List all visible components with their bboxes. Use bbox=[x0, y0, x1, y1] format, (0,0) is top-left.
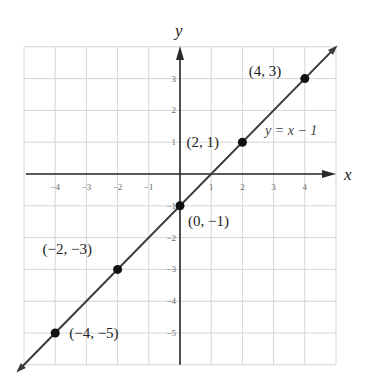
point-label: (−2, −3) bbox=[43, 241, 92, 258]
x-tick-label: −1 bbox=[144, 182, 154, 192]
y-axis-label: y bbox=[173, 21, 183, 40]
y-tick-label: −3 bbox=[166, 264, 176, 274]
point-label: (−4, −5) bbox=[69, 325, 118, 342]
y-tick-label: 1 bbox=[172, 137, 177, 147]
x-axis-arrowhead-icon bbox=[322, 170, 336, 178]
data-point-marker bbox=[51, 329, 60, 338]
x-tick-label: −4 bbox=[50, 182, 60, 192]
y-axis-arrowhead-icon bbox=[176, 46, 184, 60]
x-tick-label: −2 bbox=[113, 182, 123, 192]
y-tick-label: −4 bbox=[166, 296, 176, 306]
x-tick-label: 3 bbox=[271, 182, 276, 192]
x-axis-label: x bbox=[343, 165, 352, 184]
x-tick-label: 2 bbox=[240, 182, 245, 192]
point-label: (4, 3) bbox=[249, 63, 281, 80]
line-chart: x y −4−3−2−11234321−1−2−3−4−5 (4, 3)(2, … bbox=[0, 0, 370, 382]
y-tick-label: 3 bbox=[172, 74, 177, 84]
data-point-marker bbox=[300, 74, 309, 83]
y-tick-label: 2 bbox=[172, 105, 177, 115]
equation-label: y = x − 1 bbox=[263, 123, 317, 138]
y-tick-label: −1 bbox=[166, 201, 176, 211]
y-tick-label: −2 bbox=[166, 233, 176, 243]
point-label: (0, −1) bbox=[188, 213, 229, 230]
y-tick-label: −5 bbox=[166, 328, 176, 338]
data-point-marker bbox=[113, 265, 122, 274]
point-label: (2, 1) bbox=[186, 134, 219, 151]
x-tick-label: 4 bbox=[303, 182, 308, 192]
x-tick-label: 1 bbox=[209, 182, 214, 192]
data-point-marker bbox=[176, 201, 185, 210]
x-tick-label: −3 bbox=[82, 182, 92, 192]
data-point-marker bbox=[238, 138, 247, 147]
